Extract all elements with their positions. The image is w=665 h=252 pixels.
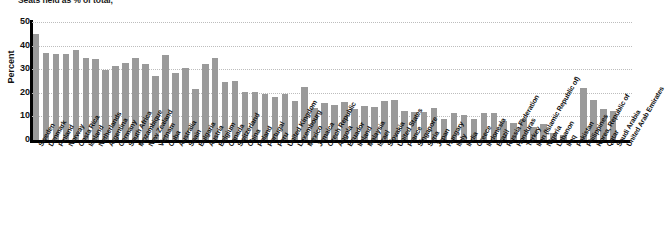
bar-slot xyxy=(72,22,82,140)
bar-slot xyxy=(470,22,480,140)
y-tick-label: 20 xyxy=(4,88,30,97)
y-axis-label: Percent xyxy=(6,50,16,83)
chart-title: Seats held as % of total, xyxy=(18,0,113,5)
y-tick-label: 0 xyxy=(4,135,30,144)
bar-slot xyxy=(440,22,450,140)
bar-slot xyxy=(261,22,271,140)
y-tick-label: 10 xyxy=(4,111,30,120)
bar-slot xyxy=(32,22,42,140)
x-axis-labels: SwedenDenmarkFinlandNorwayCosta RicaIcel… xyxy=(32,144,645,250)
y-tick-label: 50 xyxy=(4,17,30,26)
y-tick-label: 40 xyxy=(4,41,30,50)
bar[interactable] xyxy=(33,34,40,140)
bar-slot xyxy=(480,22,490,140)
